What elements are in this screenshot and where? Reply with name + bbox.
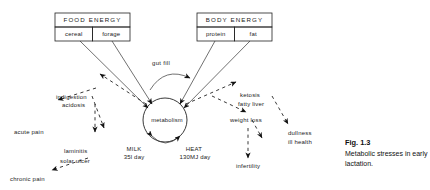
figure-caption-body: Metabolic stresses in early lactation. — [345, 149, 429, 169]
food-energy-component-cereal: cereal — [55, 31, 93, 39]
left-node-laminitis: laminitis — [64, 148, 87, 156]
figure-caption: Fig. 1.3 Metabolic stresses in early lac… — [345, 138, 429, 169]
body-energy-title: BODY ENERGY — [197, 16, 272, 24]
body-energy-component-fat: fat — [235, 31, 273, 39]
food-energy-component-forage: forage — [93, 31, 131, 39]
right-node-dullness: dullness — [288, 130, 312, 138]
gut-fill-label: gut fill — [152, 60, 170, 68]
left-node-indigestion: indigestion — [56, 94, 87, 102]
right-node-ketosis: ketosis — [240, 92, 260, 100]
output-milk-name: MILK — [118, 146, 150, 154]
left-node-solar-ulcer: solar ulcer — [60, 158, 90, 166]
output-heat-name: HEAT — [178, 146, 210, 154]
figure-caption-title: Fig. 1.3 — [345, 138, 429, 148]
gut-fill-arc — [150, 74, 190, 90]
body-energy-component-protein: protein — [197, 31, 235, 39]
figure-container: FOOD ENERGY cereal forage BODY ENERGY pr… — [0, 0, 430, 190]
metabolism-label: metabolism — [147, 117, 187, 125]
output-heat-value: 130MJ day — [172, 154, 218, 162]
output-milk-value: 35l day — [114, 154, 154, 162]
right-node-infertility: infertility — [236, 163, 260, 171]
right-node-weight-loss: weight loss — [230, 117, 262, 125]
right-node-ill-health: ill health — [288, 139, 312, 147]
right-node-fatty-liver: fatty liver — [238, 101, 264, 109]
left-node-acidosis: acidosis — [62, 102, 85, 110]
left-node-acute-pain: acute pain — [14, 129, 44, 137]
food-energy-title: FOOD ENERGY — [55, 16, 130, 24]
left-node-chronic-pain: chronic pain — [10, 176, 45, 184]
